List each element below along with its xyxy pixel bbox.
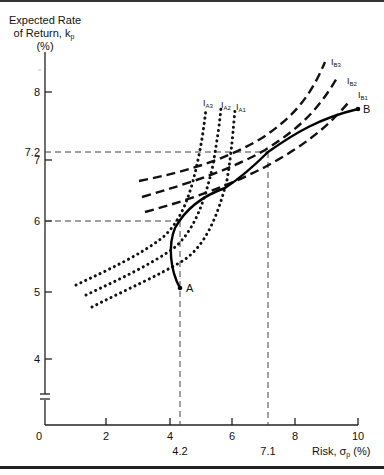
x-tick-0: 0 xyxy=(36,430,42,442)
curve-IB3 xyxy=(139,62,325,181)
curve-IB1 xyxy=(145,103,348,212)
x-tick-8: 8 xyxy=(292,430,298,442)
y-tick-8: 8 xyxy=(34,86,40,98)
y-tick-6: 6 xyxy=(34,215,40,227)
x-tick-6: 6 xyxy=(229,430,235,442)
ref-y-label-7-2: 7.2 xyxy=(25,146,40,158)
label-IA3: IA3 xyxy=(203,98,214,109)
y-tick-4: 4 xyxy=(34,353,40,365)
label-IB1: IB1 xyxy=(358,90,369,101)
curve-IA1 xyxy=(92,110,235,307)
indifference-curves-A xyxy=(76,108,235,307)
indifference-curve-chart: ≈ 8 7 6 5 4 7.2 0 2 4 6 8 10 4.2 7.1 Ris… xyxy=(0,0,384,475)
faint-mark: ≈ xyxy=(38,67,42,73)
point-B-marker xyxy=(356,107,361,112)
label-IA2: IA2 xyxy=(221,100,232,111)
curve-labels: IA3 IA2 IA1 IB3 IB2 IB1 xyxy=(203,57,369,113)
y-axis-title: Expected Rate of Return, kp (%) xyxy=(9,14,81,52)
point-B-label: B xyxy=(363,103,370,115)
label-IB3: IB3 xyxy=(331,57,342,68)
x-tick-2: 2 xyxy=(103,430,109,442)
label-IA1: IA1 xyxy=(236,102,247,113)
point-A-label: A xyxy=(186,282,194,294)
svg-text:Expected Rate: Expected Rate xyxy=(9,14,81,26)
indifference-curves-B xyxy=(139,62,348,212)
x-axis-title: Risk, σp (%) xyxy=(312,445,370,459)
x-tick-4: 4 xyxy=(167,430,173,442)
svg-text:(%): (%) xyxy=(36,40,53,52)
x-tick-10: 10 xyxy=(352,430,364,442)
label-IB2: IB2 xyxy=(347,76,358,87)
x-tick-labels: 0 2 4 6 8 10 xyxy=(36,430,364,442)
axes xyxy=(40,52,358,425)
point-A-marker xyxy=(178,286,183,291)
y-tick-5: 5 xyxy=(34,286,40,298)
svg-text:of Return, kp: of Return, kp xyxy=(14,27,75,41)
ref-x-label-7-1: 7.1 xyxy=(260,445,275,457)
curve-IA2 xyxy=(86,108,221,295)
y-tick-labels: 8 7 6 5 4 xyxy=(34,86,40,365)
ref-x-label-4-2: 4.2 xyxy=(172,445,187,457)
